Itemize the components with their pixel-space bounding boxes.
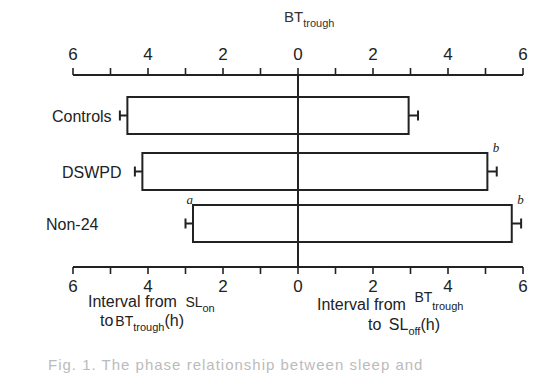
tick-label: 4 — [443, 277, 452, 296]
svg-text:toBTtrough(h): toBTtrough(h) — [100, 312, 184, 333]
category-label: Controls — [52, 108, 112, 125]
bar-left — [193, 205, 298, 242]
tick-label: 0 — [293, 45, 302, 64]
tick-label: 2 — [368, 277, 377, 296]
svg-text:to SLoff(h): to SLoff(h) — [368, 316, 440, 337]
significance-annotation: b — [517, 192, 524, 207]
title-text: BTtrough — [284, 8, 334, 29]
tick-label: 4 — [443, 45, 452, 64]
bottom-axis: 6420246 — [68, 267, 527, 296]
tick-label: 2 — [368, 45, 377, 64]
tick-label: 6 — [518, 277, 527, 296]
category-label: DSWPD — [62, 164, 122, 181]
top-axis: 6420246 — [68, 45, 527, 75]
category-label: Non-24 — [46, 216, 99, 233]
x-axis-title-left: Interval from SLon toBTtrough(h) — [88, 293, 215, 333]
tick-label: 2 — [218, 45, 227, 64]
svg-text:Interval from SLon: Interval from SLon — [88, 293, 215, 314]
svg-text:Interval from BTtrough: Interval from BTtrough — [317, 289, 463, 313]
tick-label: 2 — [218, 277, 227, 296]
figure-caption: Fig. 1. The phase relationship between s… — [48, 356, 423, 373]
tick-label: 4 — [143, 45, 152, 64]
significance-annotation: b — [493, 140, 500, 155]
x-axis-title-right: Interval from BTtrough to SLoff(h) — [317, 289, 463, 337]
tick-label: 6 — [68, 45, 77, 64]
bars: bab — [120, 97, 524, 242]
chart-title: BTtrough — [284, 8, 334, 29]
bar-right — [298, 153, 487, 190]
bar-right — [298, 97, 409, 134]
category-labels: ControlsDSWPDNon-24 — [46, 108, 122, 233]
bar-right — [298, 205, 512, 242]
bar-left — [142, 153, 298, 190]
tick-label: 6 — [518, 45, 527, 64]
significance-annotation: a — [187, 192, 194, 207]
bar-left — [127, 97, 298, 134]
tick-label: 6 — [68, 277, 77, 296]
tick-label: 0 — [293, 277, 302, 296]
